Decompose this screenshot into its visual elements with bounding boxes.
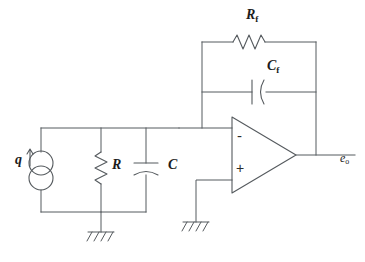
ground-input-hatch-3: [101, 232, 106, 241]
ground-input-hatch-1: [87, 232, 92, 241]
ground-noninv-hatch-4: [203, 222, 208, 231]
current-source: [27, 128, 53, 212]
label-source-resistor-symbol: R: [112, 157, 121, 172]
label-feedback-resistor: Rf: [246, 8, 258, 22]
op-amp-noninverting-sign: +: [236, 161, 244, 175]
wire-noninverting-input: [196, 180, 232, 222]
capacitor-Cf: [202, 80, 316, 104]
resistor-R: [95, 128, 107, 212]
label-feedback-capacitor-subscript: f: [276, 65, 279, 75]
op-amp-inverting-sign: -: [237, 128, 242, 143]
capacitor-C: [134, 128, 158, 212]
label-output-voltage-subscript: o: [345, 157, 349, 166]
ground-noninv-hatch-3: [196, 222, 201, 231]
current-source-circle-upper: [29, 151, 53, 175]
label-output-voltage: eo: [340, 152, 349, 164]
label-source-resistor: R: [112, 158, 121, 172]
ground-noninv-hatch-2: [189, 222, 194, 231]
current-source-circle-lower: [29, 166, 53, 190]
label-source-capacitor: C: [168, 158, 177, 172]
capacitor-C-plate-curved: [134, 172, 158, 176]
label-feedback-capacitor: Cf: [267, 59, 279, 73]
resistor-Rf-zigzag: [233, 35, 265, 49]
ground-input: [87, 232, 114, 241]
resistor-R-zigzag: [95, 152, 107, 184]
capacitor-Cf-plate-curved: [261, 80, 265, 104]
label-charge-source: q: [15, 153, 22, 167]
label-feedback-resistor-subscript: f: [255, 14, 258, 24]
label-feedback-resistor-symbol: R: [246, 7, 255, 22]
label-feedback-capacitor-symbol: C: [267, 58, 276, 73]
ground-input-hatch-2: [94, 232, 99, 241]
resistor-Rf: [202, 35, 316, 49]
circuit-canvas: [0, 0, 365, 262]
ground-noninv-hatch-1: [182, 222, 187, 231]
ground-input-hatch-4: [108, 232, 113, 241]
label-charge-source-symbol: q: [15, 152, 22, 167]
circuit-diagram: Rf Cf R C q eo - +: [0, 0, 365, 262]
label-source-capacitor-symbol: C: [168, 157, 177, 172]
ground-noninverting: [182, 222, 209, 231]
